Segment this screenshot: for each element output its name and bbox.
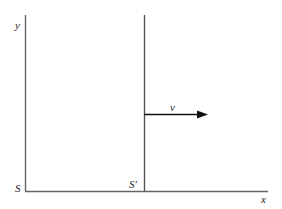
reference-frames-diagram	[0, 0, 282, 209]
frame-s-label: S	[15, 183, 21, 194]
y-axis-label: y	[15, 20, 20, 31]
x-axis-label: x	[261, 194, 266, 205]
velocity-arrow-head	[197, 111, 208, 119]
frame-s-prime-label: S′	[129, 179, 137, 190]
velocity-label: v	[170, 102, 175, 113]
